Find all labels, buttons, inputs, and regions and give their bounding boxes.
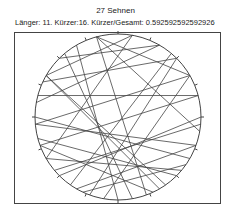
tick-mark <box>177 176 179 178</box>
tick-mark <box>85 194 86 197</box>
tick-mark <box>57 176 59 178</box>
chord <box>59 117 201 176</box>
chord <box>35 124 196 145</box>
tick-mark <box>195 84 198 85</box>
chord <box>90 58 177 195</box>
chord <box>36 45 159 102</box>
tick-mark <box>39 84 42 85</box>
tick-mark <box>150 38 151 41</box>
chord <box>40 96 198 146</box>
chord <box>46 76 165 185</box>
chord-diagram <box>0 0 231 216</box>
tick-mark <box>150 194 151 197</box>
chord <box>104 76 190 199</box>
tick-mark <box>195 149 198 150</box>
tick-mark <box>57 56 59 58</box>
tick-mark <box>177 56 179 58</box>
chord <box>97 37 147 195</box>
chord <box>46 35 132 75</box>
tick-mark <box>39 149 42 150</box>
chord <box>46 76 159 189</box>
chord <box>83 165 186 193</box>
tick-mark <box>85 38 86 41</box>
chord <box>35 76 190 125</box>
chord <box>46 159 181 171</box>
